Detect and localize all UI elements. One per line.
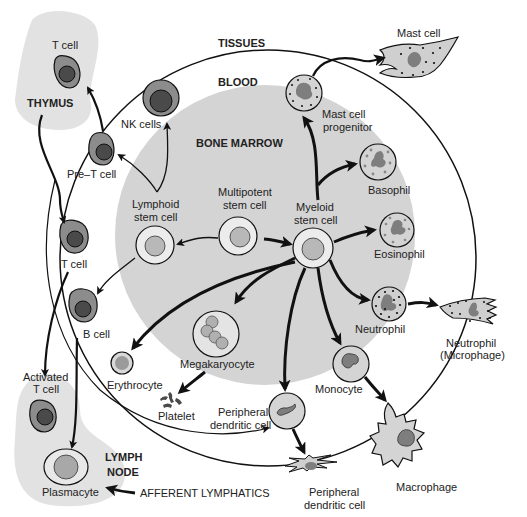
erythrocyte-label: Erythrocyte	[107, 379, 163, 391]
mast-progenitor-label-1: Mast cell	[322, 108, 365, 120]
nk-cell	[143, 80, 179, 116]
b-cell	[69, 289, 97, 322]
blood-t-cell	[60, 220, 88, 253]
activated-t-cell	[30, 400, 56, 432]
mast-cell	[380, 37, 458, 78]
afferent-lymphatics-label: AFFERENT LYMPHATICS	[140, 487, 270, 499]
hematopoiesis-diagram: TISSUES BLOOD BONE MARROW THYMUS LYMPH N…	[0, 0, 527, 517]
megakaryocyte-label: Megakaryocyte	[180, 358, 255, 370]
peripheral-dc-blood-label-1: Peripheral	[218, 406, 268, 418]
megakaryocyte	[193, 311, 239, 357]
erythrocyte	[111, 352, 133, 374]
plasmacyte-label: Plasmacyte	[42, 486, 99, 498]
thymus-t-cell-label: T cell	[52, 39, 78, 51]
peripheral-dc-tissue-label-2: dendritic cell	[304, 499, 365, 511]
monocyte-label: Monocyte	[315, 383, 363, 395]
lymph-node-label-2: NODE	[107, 466, 139, 478]
peripheral-dc-blood	[269, 393, 305, 429]
mast-cell-progenitor	[286, 75, 322, 111]
pre-t-cell	[89, 133, 114, 166]
eosinophil	[380, 213, 414, 247]
lymph-node-label-1: LYMPH	[105, 451, 143, 463]
mast-cell-label: Mast cell	[397, 27, 440, 39]
macrophage-label: Macrophage	[396, 481, 457, 493]
basophil	[360, 144, 396, 180]
myeloid-label-1: Myeloid	[296, 201, 334, 213]
bone-marrow-label: BONE MARROW	[196, 137, 283, 149]
monocyte	[333, 346, 369, 382]
activated-t-label-2: T cell	[33, 383, 59, 395]
neutrophil-microphage-label-1: Neutrophil	[446, 337, 496, 349]
eosinophil-label: Eosinophil	[374, 248, 425, 260]
neutrophil-label: Neutrophil	[355, 323, 405, 335]
neutrophil	[372, 287, 406, 321]
myeloid-label-2: stem cell	[294, 214, 337, 226]
pre-t-cell-label: Pre–T cell	[67, 168, 116, 180]
peripheral-dc-tissue-label-1: Peripheral	[309, 486, 359, 498]
lymphoid-stem-label-2: stem cell	[134, 211, 177, 223]
nk-cells-label: NK cells	[121, 118, 162, 130]
thymus-label: THYMUS	[27, 97, 73, 109]
basophil-label: Basophil	[368, 184, 410, 196]
blood-label: BLOOD	[218, 76, 258, 88]
lymphoid-stem-cell	[136, 226, 174, 264]
multipotent-label-2: stem cell	[223, 199, 266, 211]
tissues-label: TISSUES	[218, 37, 265, 49]
platelet-label: Platelet	[158, 410, 195, 422]
neutrophil-microphage-label-2: (Microphage)	[440, 349, 505, 361]
b-cell-label: B cell	[83, 328, 110, 340]
myeloid-stem-cell	[293, 228, 333, 268]
blood-t-cell-label: T cell	[61, 258, 87, 270]
lymphoid-stem-label-1: Lymphoid	[132, 198, 179, 210]
plasmacyte	[44, 449, 88, 485]
multipotent-stem-cell	[219, 217, 257, 255]
multipotent-label-1: Multipotent	[218, 186, 272, 198]
mast-progenitor-label-2: progenitor	[323, 121, 373, 133]
